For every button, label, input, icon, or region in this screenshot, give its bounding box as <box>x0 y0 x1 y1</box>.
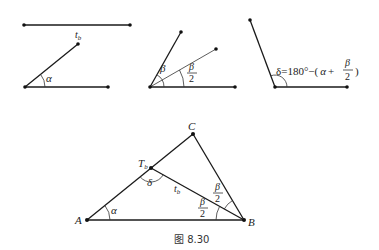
endpoint <box>22 23 26 27</box>
vertex <box>273 85 277 89</box>
half-beta-numerator: β <box>188 61 194 72</box>
endpoint <box>128 23 132 27</box>
half-beta-arc-upper <box>224 201 232 210</box>
delta-ray-slant <box>250 20 275 87</box>
alpha-arc <box>41 74 45 87</box>
point-b <box>242 218 246 222</box>
vertex <box>23 85 27 89</box>
formula-denominator: 2 <box>345 71 350 82</box>
endpoint <box>345 85 349 89</box>
alpha-label: α <box>46 72 52 84</box>
tb-segment-label: tb <box>174 183 181 196</box>
endpoint <box>248 18 252 22</box>
point-tb <box>149 166 153 170</box>
alpha-angle-panel: α <box>23 42 110 89</box>
label-tb: Tb <box>138 157 148 171</box>
point-a <box>85 218 89 222</box>
endpoint <box>214 47 218 51</box>
endpoint <box>233 85 237 89</box>
half-beta-denominator: 2 <box>189 73 194 84</box>
label-a: A <box>74 214 82 226</box>
delta-label: δ <box>147 176 153 188</box>
alpha-arc <box>105 206 110 221</box>
delta-formula: δ=180°−(α+ β 2 ) <box>276 57 359 82</box>
endpoint <box>106 85 110 89</box>
beta-ray-slant <box>150 32 181 87</box>
point-c <box>191 132 195 136</box>
half-beta-arc-lower <box>216 206 220 220</box>
formula-prefix: δ=180°−(α+ <box>276 65 334 78</box>
segment-tb-panel: tb <box>22 23 132 42</box>
endpoint <box>76 42 80 46</box>
half-beta-label: β 2 <box>187 61 197 84</box>
alpha-label: α <box>111 204 117 216</box>
vertex <box>148 85 152 89</box>
geometry-figure: tb α β β 2 δ=180° <box>0 0 379 250</box>
triangle-abc: A B C Tb α δ tb β 2 β 2 <box>74 120 255 228</box>
beta-angle-panel: β β 2 <box>148 30 237 89</box>
delta-angle-panel: δ=180°−(α+ β 2 ) <box>248 18 359 89</box>
numerator: β <box>214 181 220 192</box>
endpoint <box>179 30 183 34</box>
denominator: 2 <box>200 208 205 219</box>
label-b: B <box>248 216 255 228</box>
label-c: C <box>188 120 196 132</box>
beta-label: β <box>159 62 166 74</box>
formula-numerator: β <box>344 57 350 68</box>
half-beta-arc <box>180 70 185 87</box>
half-beta-label-upper: β 2 <box>213 181 223 204</box>
tb-label: tb <box>75 29 82 42</box>
denominator: 2 <box>215 193 220 204</box>
numerator: β <box>199 196 205 207</box>
bisector-tb <box>151 168 244 220</box>
formula-close-paren: ) <box>355 65 359 78</box>
figure-caption: 图 8.30 <box>174 234 209 245</box>
